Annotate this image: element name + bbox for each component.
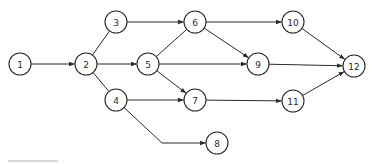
- node-label: 8: [214, 139, 220, 149]
- edge-10-to-12: [302, 28, 345, 59]
- edge-5-to-7: [157, 71, 186, 93]
- edge-4-to-8: [124, 108, 205, 143]
- node-label: 9: [255, 60, 261, 70]
- node-12: 12: [343, 55, 365, 77]
- edge-2-to-3: [92, 31, 109, 55]
- caption-fragment: [8, 160, 58, 162]
- node-1: 1: [9, 53, 31, 75]
- node-2: 2: [75, 53, 97, 75]
- node-label: 4: [113, 96, 119, 106]
- node-label: 12: [348, 62, 359, 72]
- node-8: 8: [206, 132, 228, 154]
- node-label: 5: [145, 60, 151, 70]
- node-label: 3: [113, 18, 119, 28]
- node-label: 7: [192, 96, 198, 106]
- node-3: 3: [105, 11, 127, 33]
- node-4: 4: [105, 89, 127, 111]
- edge-5-to-6: [156, 30, 186, 57]
- network-diagram: 123456789101112: [0, 0, 372, 164]
- node-7: 7: [184, 89, 206, 111]
- edges-layer: [31, 22, 345, 143]
- node-label: 10: [287, 18, 299, 28]
- node-label: 1: [17, 60, 23, 70]
- node-10: 10: [282, 11, 304, 33]
- edge-2-to-4: [93, 72, 109, 91]
- node-label: 6: [192, 18, 198, 28]
- node-11: 11: [282, 90, 304, 112]
- edge-6-to-9: [204, 28, 248, 58]
- node-label: 2: [83, 60, 89, 70]
- edge-11-to-12: [303, 72, 344, 96]
- node-6: 6: [184, 11, 206, 33]
- nodes-layer: 123456789101112: [9, 11, 365, 154]
- edge-9-to-12: [269, 64, 343, 66]
- edge-7-to-11: [206, 100, 282, 101]
- node-5: 5: [137, 53, 159, 75]
- node-9: 9: [247, 53, 269, 75]
- node-label: 11: [287, 97, 298, 107]
